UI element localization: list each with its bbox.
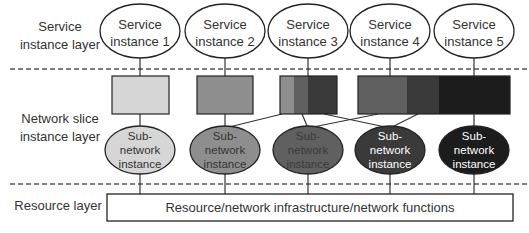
slice-4-segment-a — [358, 76, 407, 114]
service-instance-3-line1: Service — [286, 17, 329, 32]
service-instance-5-line1: Service — [452, 17, 495, 32]
service-instance-3-line2: instance 3 — [278, 34, 337, 49]
slice-layer-label-line1: Network slice — [21, 111, 98, 126]
network-slicing-diagram: Service instance layer Network slice ins… — [0, 0, 529, 233]
subnetwork-3-line2: network — [288, 144, 329, 156]
service-instance-2-line1: Service — [203, 17, 246, 32]
subnetwork-instance-4: Sub- network instance — [355, 126, 425, 174]
connector-slice3-sub4 — [324, 114, 390, 128]
subnetwork-2-line3: instance — [204, 158, 247, 170]
slice-3-segment-b — [294, 76, 308, 114]
slice-4-segment-b — [407, 76, 439, 114]
subnetwork-4-line1: Sub- — [378, 130, 402, 142]
subnetwork-5-line1: Sub- — [462, 130, 486, 142]
subnetwork-3-line3: instance — [287, 158, 330, 170]
network-slice-2 — [197, 76, 253, 114]
subnetwork-4-line2: network — [370, 144, 411, 156]
resource-layer-label: Resource layer — [14, 198, 102, 213]
slice-3-segment-c — [308, 76, 337, 114]
resource-infrastructure-label: Resource/network infrastructure/network … — [165, 200, 455, 215]
service-instance-1: Service instance 1 — [100, 4, 180, 58]
service-instance-1-line1: Service — [118, 17, 161, 32]
service-instance-5: Service instance 5 — [434, 4, 514, 58]
service-instance-2: Service instance 2 — [185, 4, 265, 58]
service-instance-2-line2: instance 2 — [195, 34, 254, 49]
network-slice-1 — [112, 76, 169, 114]
subnetwork-5-line2: network — [454, 144, 495, 156]
service-layer-label-line1: Service — [38, 19, 81, 34]
network-slice-3 — [280, 76, 337, 114]
subnetwork-instance-3: Sub- network instance — [273, 126, 343, 174]
connector-slice3-sub2 — [225, 114, 282, 128]
connector-slice4-sub3 — [308, 114, 378, 128]
subnetwork-5-line3: instance — [453, 158, 496, 170]
subnetwork-instance-2: Sub- network instance — [190, 126, 260, 174]
subnetwork-4-line3: instance — [369, 158, 412, 170]
slice-layer-label-line2: instance layer — [20, 129, 101, 144]
subnetwork-1-line2: network — [120, 144, 161, 156]
subnetwork-1-line3: instance — [119, 158, 162, 170]
service-instance-5-line2: instance 5 — [444, 34, 503, 49]
slice-2-segment — [197, 76, 253, 114]
subnetwork-3-line1: Sub- — [296, 130, 320, 142]
network-slice-4-5 — [358, 76, 510, 114]
service-instance-3: Service instance 3 — [268, 4, 348, 58]
service-instance-4-line2: instance 4 — [360, 34, 419, 49]
service-instance-1-line2: instance 1 — [110, 34, 169, 49]
service-instance-4-line1: Service — [368, 17, 411, 32]
service-instance-4: Service instance 4 — [350, 4, 430, 58]
subnetwork-instance-5: Sub- network instance — [439, 126, 509, 174]
resource-infrastructure-box: Resource/network infrastructure/network … — [107, 194, 513, 221]
slice-5-segment — [439, 76, 510, 114]
subnetwork-2-line2: network — [205, 144, 246, 156]
slice-3-segment-a — [280, 76, 294, 114]
subnetwork-1-line1: Sub- — [128, 130, 152, 142]
slice-1-segment — [112, 76, 169, 114]
subnetwork-2-line1: Sub- — [213, 130, 237, 142]
service-layer-label-line2: instance layer — [20, 37, 101, 52]
subnetwork-instance-1: Sub- network instance — [105, 126, 175, 174]
